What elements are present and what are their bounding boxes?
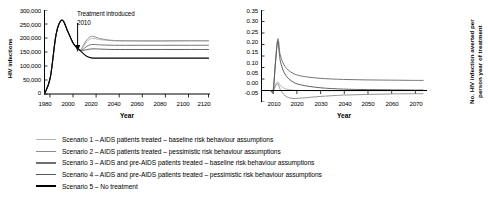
legend-swatch-line [36, 139, 56, 140]
right-y-axis-title-line2: person year of treatment [476, 25, 483, 98]
right-y-tick: 0.25 [234, 28, 258, 35]
chart-panel-right: No. HIV infection averted per person yea… [214, 0, 430, 132]
right-y-tick: 0.05 [234, 69, 258, 76]
legend-item: Scenario 1 – AIDS patients treated – bas… [0, 134, 430, 146]
right-y-axis-title-line1: No. HIV infection averted per [468, 19, 475, 104]
left-y-tick: 0 [5, 89, 41, 96]
series-line-1 [45, 20, 209, 94]
legend-item: Scenario 3 – AIDS and pre-AIDS patients … [0, 157, 430, 169]
legend-swatch [36, 185, 56, 187]
legend-swatch [36, 162, 56, 164]
left-y-tick: 250,000 [5, 21, 41, 28]
chart-panel-left: HIV infections 300,000 250,000 200,000 1… [0, 0, 215, 132]
right-plot-area [261, 10, 427, 102]
left-plot-area [44, 10, 210, 98]
legend-swatch-line [36, 185, 56, 187]
right-series-group [271, 39, 423, 99]
series-line-4 [271, 41, 423, 93]
legend-item: Scenario 5 – No treatment [0, 180, 430, 192]
legend-item-label: Scenario 4 – AIDS and pre-AIDS patients … [62, 171, 322, 178]
left-y-tick: 100,000 [5, 62, 41, 69]
series-line-2 [45, 20, 209, 94]
right-y-tick: -0.05 [231, 89, 258, 96]
right-y-tick: 0.35 [234, 7, 258, 14]
series-line-4 [45, 20, 209, 94]
left-series-group [45, 20, 209, 94]
right-y-tick: 0.15 [234, 48, 258, 55]
legend-item-label: Scenario 1 – AIDS patients treated – bas… [62, 136, 273, 143]
legend-item: Scenario 2 – AIDS patients treated – pes… [0, 146, 430, 158]
right-x-axis-title: Year [261, 112, 427, 119]
right-x-tick: 2070 [401, 100, 431, 107]
right-y-tick: 0.00 [234, 79, 258, 86]
legend-item-label: Scenario 2 – AIDS patients treated – pes… [62, 148, 281, 155]
legend-item-label: Scenario 5 – No treatment [62, 183, 138, 190]
left-y-tick: 50,000 [5, 76, 41, 83]
legend-swatch-line [36, 174, 56, 176]
legend-swatch [36, 174, 56, 176]
legend-swatch-line [36, 162, 56, 164]
right-y-tick: 0.10 [234, 59, 258, 66]
right-y-tick: 0.30 [234, 17, 258, 24]
right-y-tick: 0.20 [234, 38, 258, 45]
left-y-tick: 150,000 [5, 48, 41, 55]
series-line-3 [271, 39, 423, 93]
left-y-tick: 300,000 [5, 7, 41, 14]
chart-legend: Scenario 1 – AIDS patients treated – bas… [0, 134, 430, 197]
legend-swatch [36, 139, 56, 140]
left-y-tick: 200,000 [5, 34, 41, 41]
legend-item-label: Scenario 3 – AIDS and pre-AIDS patients … [62, 159, 314, 166]
right-y-axis-title-wrap: No. HIV infection averted per person yea… [428, 8, 488, 108]
left-x-axis-title: Year [44, 112, 210, 119]
series-line-3 [45, 20, 209, 94]
series-line-5 [45, 20, 209, 94]
legend-swatch [36, 151, 56, 153]
left-x-tickmarks [50, 94, 209, 98]
legend-item: Scenario 4 – AIDS and pre-AIDS patients … [0, 169, 430, 181]
legend-swatch-line [36, 151, 56, 153]
